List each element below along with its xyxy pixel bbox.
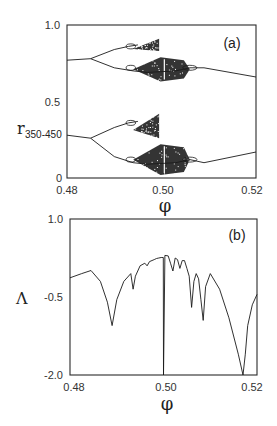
lower-upper-arm	[91, 121, 138, 138]
chaos-speckle	[153, 135, 154, 136]
chaos-speckle	[151, 51, 152, 52]
chaos-speckle	[137, 132, 138, 133]
chaos-speckle	[154, 169, 155, 170]
chaos-speckle	[166, 168, 167, 169]
a-ytick-mid: 0.5	[45, 96, 60, 108]
chaos-speckle	[138, 123, 139, 124]
chaos-speckle	[166, 64, 167, 65]
chaos-speckle	[180, 174, 181, 175]
chaos-speckle	[182, 73, 183, 74]
chaos-speckle	[157, 65, 158, 66]
lower-main-curve	[67, 135, 91, 138]
chaos-speckle	[156, 124, 157, 125]
chaos-speckle	[134, 42, 135, 43]
chaos-speckle	[185, 164, 186, 165]
chaos-speckle	[144, 63, 145, 64]
chaos-speckle	[147, 167, 148, 168]
chaos-speckle	[157, 43, 158, 44]
chaos-speckle	[141, 136, 142, 137]
chaos-speckle	[147, 40, 148, 41]
panel-b-label: (b)	[228, 227, 245, 243]
chaos-speckle	[142, 126, 143, 127]
chaos-speckle	[179, 79, 180, 80]
chaos-speckle	[149, 153, 150, 154]
chaos-speckle	[156, 137, 157, 138]
chaos-speckle	[153, 51, 154, 52]
chaos-speckle	[161, 151, 162, 152]
upper-main-curve	[67, 59, 91, 61]
chaos-speckle	[144, 147, 145, 148]
upper-tail	[204, 68, 256, 77]
figure: (a) 1.0 0.5 0 0.48 0.50 0.52 φ r 350-450…	[0, 0, 277, 426]
chaos-speckle	[148, 131, 149, 132]
chaos-speckle	[153, 79, 154, 80]
chaos-speckle	[149, 50, 150, 51]
a-ytick-bottom: 0	[56, 172, 62, 184]
chaos-speckle	[147, 132, 148, 133]
chaos-speckle	[150, 119, 151, 120]
lyapunov-curve	[70, 255, 257, 375]
period-doubling-bubble	[126, 65, 135, 70]
chaos-speckle	[152, 43, 153, 44]
chaos-speckle	[168, 156, 169, 157]
chaos-speckle	[157, 160, 158, 161]
chaos-speckle	[185, 81, 186, 82]
chaos-speckle	[152, 127, 153, 128]
a-ylabel: r	[17, 119, 25, 138]
chaos-speckle	[159, 153, 160, 154]
chaos-speckle	[142, 50, 143, 51]
chaos-speckle	[169, 70, 170, 71]
b-ylabel: Λ	[15, 289, 28, 308]
chaos-speckle	[147, 169, 148, 170]
chaos-speckle	[145, 48, 146, 49]
chaos-speckle	[139, 137, 140, 138]
chaos-speckle	[178, 166, 179, 167]
chaos-speckle	[140, 59, 141, 60]
b-ytick-top: 1.0	[48, 213, 63, 225]
chaos-speckle	[151, 120, 152, 121]
b-xtick-left: 0.48	[63, 381, 84, 393]
chaos-speckle	[175, 152, 176, 153]
chaos-speckle	[139, 46, 140, 47]
chaos-speckle	[141, 131, 142, 132]
a-ylabel-subscript: 350-450	[25, 129, 62, 140]
chaos-speckle	[141, 129, 142, 130]
chaos-speckle	[149, 135, 150, 136]
chaos-speckle	[152, 66, 153, 67]
chaos-speckle	[169, 75, 170, 76]
chaos-speckle	[179, 154, 180, 155]
chaos-speckle	[152, 162, 153, 163]
chaos-speckle	[189, 152, 190, 153]
chaos-speckle	[158, 123, 159, 124]
a-xtick-left: 0.48	[56, 184, 77, 196]
chaos-speckle	[188, 59, 189, 60]
a-xlabel: φ	[159, 195, 172, 216]
chaos-speckle	[188, 75, 189, 76]
chaos-speckle	[143, 129, 144, 130]
chaos-speckle	[166, 155, 167, 156]
chaos-speckle	[136, 138, 137, 139]
chaos-speckle	[154, 63, 155, 64]
panel-a-label: (a)	[223, 35, 240, 51]
chaos-speckle	[159, 48, 160, 49]
b-xlabel: φ	[161, 393, 174, 414]
upper-upper-arm	[91, 45, 138, 59]
chaos-speckle	[155, 130, 156, 131]
chaotic-band	[133, 114, 159, 138]
chaos-speckle	[183, 79, 184, 80]
b-ytick-mid: -0.5	[44, 291, 63, 303]
chaos-speckle	[150, 132, 151, 133]
chaos-speckle	[145, 166, 146, 167]
chaos-speckle	[175, 170, 176, 171]
chaos-speckle	[154, 130, 155, 131]
chaos-speckle	[157, 167, 158, 168]
chaos-speckle	[158, 116, 159, 117]
chaos-speckle	[137, 60, 138, 61]
chaos-speckle	[145, 136, 146, 137]
chaos-speckle	[139, 49, 140, 50]
chaos-speckle	[144, 132, 145, 133]
chaos-speckle	[160, 79, 161, 80]
chaos-speckle	[187, 81, 188, 82]
chaos-speckle	[152, 121, 153, 122]
a-ytick-top: 1.0	[45, 19, 60, 31]
